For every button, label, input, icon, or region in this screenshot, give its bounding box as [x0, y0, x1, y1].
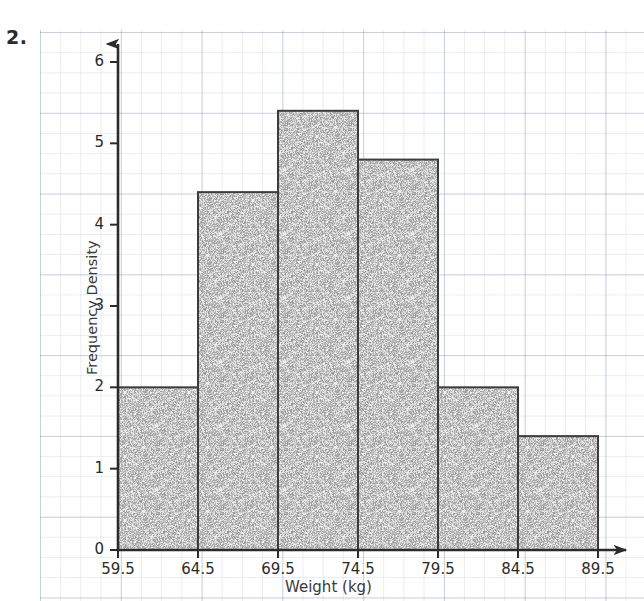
- y-axis-title: Frequency Density: [84, 240, 100, 375]
- x-axis-tick-label: 89.5: [568, 560, 628, 578]
- y-axis-tick-label: 2: [78, 377, 104, 395]
- y-axis-tick-label: 4: [78, 215, 104, 233]
- bar-series: [118, 111, 598, 550]
- x-axis-tick-label: 59.5: [88, 560, 148, 578]
- x-axis-tick-label: 74.5: [328, 560, 388, 578]
- y-axis-tick-label: 6: [78, 52, 104, 70]
- x-axis-tick-label: 84.5: [488, 560, 548, 578]
- x-axis-tick-label: 69.5: [248, 560, 308, 578]
- histogram-bar: [358, 160, 438, 550]
- histogram-bar: [518, 436, 598, 550]
- y-axis-tick-label: 0: [78, 540, 104, 558]
- y-axis-tick-label: 1: [78, 459, 104, 477]
- x-axis-tick-label: 79.5: [408, 560, 468, 578]
- x-axis-title: Weight (kg): [285, 578, 372, 596]
- histogram-bar: [438, 387, 518, 550]
- histogram-bar: [198, 192, 278, 550]
- x-axis-tick-label: 64.5: [168, 560, 228, 578]
- histogram-bar: [118, 387, 198, 550]
- y-axis-tick-label: 5: [78, 133, 104, 151]
- histogram-bar: [278, 111, 358, 550]
